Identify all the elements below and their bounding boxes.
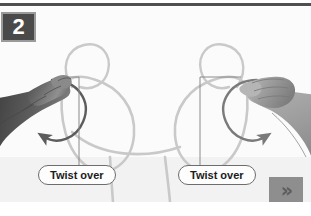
step-number-badge: 2	[1, 12, 36, 42]
callout-right: Twist over	[178, 165, 256, 185]
illustration-panel: 2 Twist over Twist over »	[0, 7, 311, 202]
figure-root: 2 Twist over Twist over »	[0, 0, 311, 216]
top-divider-rule	[0, 3, 311, 6]
callout-left: Twist over	[38, 165, 116, 185]
double-chevron-right-icon[interactable]: »	[269, 177, 303, 202]
